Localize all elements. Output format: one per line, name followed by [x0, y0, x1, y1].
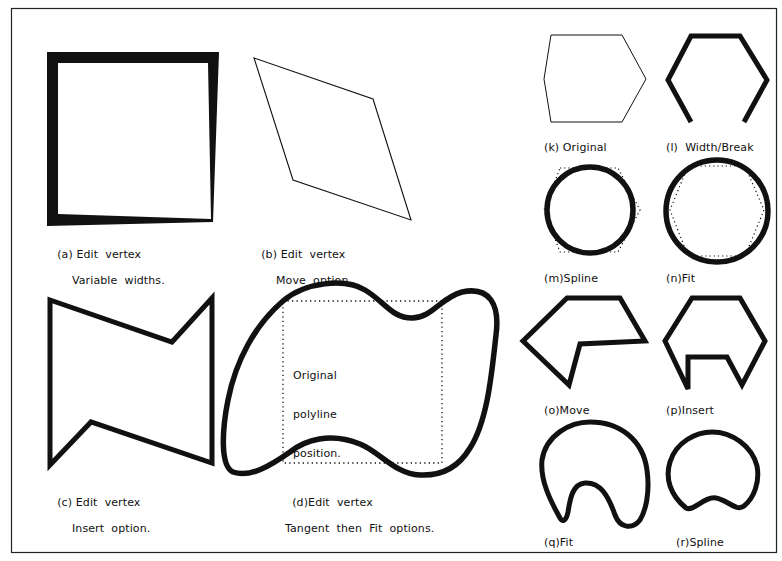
- shape-q-fit-curve: [542, 422, 648, 526]
- caption-q: (q)Fit: [544, 536, 573, 549]
- caption-p: (p)Insert: [666, 404, 714, 417]
- d-inner-note: Original polyline position.: [293, 343, 341, 473]
- shape-c-inserted-vertex-shape: [50, 298, 212, 465]
- caption-d-label: (d): [292, 496, 308, 509]
- caption-a-label: (a): [57, 248, 73, 261]
- shape-m-spline-circle: [544, 167, 640, 253]
- caption-k: (k) Original: [544, 141, 607, 154]
- shape-p-inserted-hexagon: [665, 298, 765, 389]
- d-note-line3: position.: [293, 447, 341, 460]
- caption-n: (n)Fit: [666, 272, 695, 285]
- caption-d: (d)Edit vertex Tangent then Fit options.: [285, 483, 434, 548]
- shape-b-moved-rhombus: [254, 58, 411, 220]
- shape-o-moved-polygon: [523, 298, 645, 385]
- shape-r-spline-curve: [668, 432, 758, 509]
- caption-l: (l) Width/Break: [666, 141, 754, 154]
- caption-b-line2: Move option.: [276, 274, 352, 287]
- caption-c-line2: Insert option.: [72, 522, 150, 535]
- caption-m: (m)Spline: [544, 272, 598, 285]
- caption-a: (a) Edit vertex Variable widths.: [50, 235, 165, 300]
- shape-n-fit-circle: [666, 160, 768, 262]
- caption-a-line1: Edit vertex: [76, 248, 141, 261]
- caption-r: (r)Spline: [676, 536, 724, 549]
- caption-b: (b) Edit vertex Move option.: [254, 235, 352, 300]
- d-note-line1: Original: [293, 369, 341, 382]
- caption-b-line1: Edit vertex: [281, 248, 346, 261]
- d-note-line2: polyline: [293, 408, 341, 421]
- caption-b-label: (b): [261, 248, 277, 261]
- shape-a-variable-width-square: [47, 52, 219, 226]
- caption-c-line1: Edit vertex: [76, 496, 141, 509]
- caption-o: (o)Move: [544, 404, 590, 417]
- caption-c: (c) Edit vertex Insert option.: [50, 483, 150, 548]
- caption-c-label: (c): [57, 496, 72, 509]
- shape-k-original-hexagon: [544, 35, 646, 122]
- caption-d-line1: Edit vertex: [308, 496, 373, 509]
- shape-l-width-break-hexagon: [668, 36, 767, 122]
- caption-d-line2: Tangent then Fit options.: [285, 522, 434, 535]
- caption-a-line2: Variable widths.: [72, 274, 165, 287]
- shape-d-fit-curve: [223, 283, 497, 475]
